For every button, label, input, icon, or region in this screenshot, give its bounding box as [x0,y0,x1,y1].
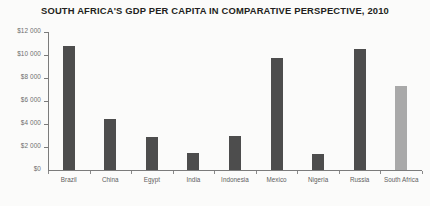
x-axis-tick-mark [256,171,257,174]
x-axis-line [48,170,422,171]
x-axis-tick-mark [90,171,91,174]
x-axis-tick-mark [214,171,215,174]
bar [395,86,407,170]
chart-title: SOUTH AFRICA'S GDP PER CAPITA IN COMPARA… [0,5,430,16]
y-axis-tick-label: $6 000 [21,96,41,103]
x-axis-tick-mark [173,171,174,174]
plot-area [48,32,422,170]
bar [146,137,158,170]
y-axis-tick-label: $2 000 [21,142,41,149]
x-axis-tick-mark [422,171,423,174]
x-axis-tick-mark [297,171,298,174]
bar [271,58,283,170]
bar [229,136,241,171]
y-axis-tick-label: $10 000 [17,50,41,57]
x-axis-category-label: South Africa [371,176,430,184]
y-axis-tick-label: $8 000 [21,73,41,80]
bar [354,49,366,170]
bar [187,153,199,170]
y-axis-tick-label: $0 [34,165,41,172]
bar [104,119,116,170]
x-axis-tick-mark [131,171,132,174]
chart-figure: SOUTH AFRICA'S GDP PER CAPITA IN COMPARA… [0,0,430,206]
bar [63,46,75,170]
x-axis-tick-mark [339,171,340,174]
y-axis-tick-label: $12 000 [17,27,41,34]
bar [312,154,324,170]
y-axis-tick-label: $4 000 [21,119,41,126]
x-axis-tick-mark [380,171,381,174]
x-axis-tick-mark [48,171,49,174]
